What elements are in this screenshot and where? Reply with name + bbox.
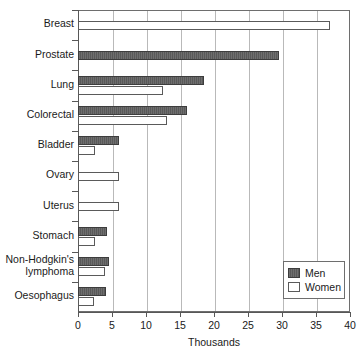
women-swatch-icon xyxy=(288,282,300,292)
bar-women xyxy=(78,146,95,155)
x-axis-title: Thousands xyxy=(78,336,350,348)
category-tick xyxy=(72,10,78,11)
x-tick-10 xyxy=(146,312,147,317)
category-tick xyxy=(72,191,78,192)
bar-women xyxy=(78,267,105,276)
bar-men xyxy=(78,257,109,266)
bar-men xyxy=(78,227,107,236)
bar-women xyxy=(78,172,119,181)
category-tick xyxy=(72,40,78,41)
bar-men xyxy=(78,76,204,85)
x-tick-5 xyxy=(112,312,113,317)
category-tick xyxy=(72,161,78,162)
x-tick-40 xyxy=(350,312,351,317)
category-label: Prostate xyxy=(0,49,74,61)
bar-women xyxy=(78,237,95,246)
category-label: Ovary xyxy=(0,169,74,181)
bar-men xyxy=(78,106,187,115)
x-tick-15 xyxy=(180,312,181,317)
category-tick xyxy=(72,131,78,132)
legend-label-women: Women xyxy=(305,281,341,293)
x-tick-30 xyxy=(282,312,283,317)
x-tick-label-40: 40 xyxy=(330,319,364,331)
category-label: Breast xyxy=(0,18,74,30)
x-tick-0 xyxy=(78,312,79,317)
men-swatch-icon xyxy=(288,268,300,278)
category-tick xyxy=(72,282,78,283)
category-label: Lung xyxy=(0,79,74,91)
x-tick-35 xyxy=(316,312,317,317)
category-label: Non-Hodgkin'slymphoma xyxy=(0,254,74,277)
bar-women xyxy=(78,116,167,125)
category-label: Oesophagus xyxy=(0,290,74,302)
x-tick-20 xyxy=(214,312,215,317)
category-label: Stomach xyxy=(0,230,74,242)
category-label: Colorectal xyxy=(0,109,74,121)
legend: Men Women xyxy=(283,261,345,299)
legend-item-women: Women xyxy=(288,281,340,293)
legend-label-men: Men xyxy=(305,267,325,279)
bar-women xyxy=(78,202,119,211)
bar-women xyxy=(78,86,163,95)
bar-men xyxy=(78,136,119,145)
bar-women xyxy=(78,21,330,30)
bar-chart: BreastProstateLungColorectalBladderOvary… xyxy=(0,0,364,356)
category-label: Bladder xyxy=(0,139,74,151)
category-tick xyxy=(72,70,78,71)
category-tick xyxy=(72,101,78,102)
category-label: Uterus xyxy=(0,200,74,212)
bar-men xyxy=(78,51,279,60)
bar-men xyxy=(78,287,106,296)
x-tick-25 xyxy=(248,312,249,317)
bar-women xyxy=(78,297,94,306)
category-tick xyxy=(72,221,78,222)
legend-item-men: Men xyxy=(288,267,340,279)
